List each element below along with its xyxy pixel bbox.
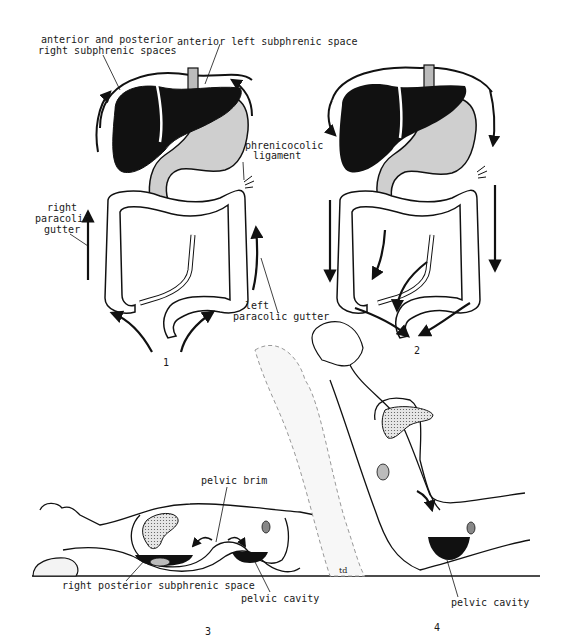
liver-3	[143, 513, 179, 548]
label-phrenicocolic-ligament: phrenicocolic ligament	[245, 141, 323, 161]
label-line: gutter	[35, 224, 89, 235]
colon-2	[337, 190, 480, 338]
panel-number-1: 1	[163, 357, 169, 368]
label-line: paracolic gutter	[233, 311, 329, 322]
label-anterior-left-subphrenic: anterior left subphrenic space	[177, 36, 358, 47]
label-line: right subphrenic spaces	[38, 45, 176, 56]
panel-number-2: 2	[414, 345, 420, 356]
label-line: anterior and posterior	[38, 34, 176, 45]
label-right-paracolic-gutter: right paracolic gutter	[35, 202, 89, 235]
label-pelvic-brim: pelvic brim	[201, 475, 267, 486]
label-line: ligament	[245, 151, 323, 161]
liver-4	[382, 407, 433, 439]
label-left-paracolic-gutter: left paracolic gutter	[233, 300, 329, 322]
label-line: paracolic	[35, 213, 89, 224]
label-pelvic-cavity-4: pelvic cavity	[451, 597, 529, 608]
panel-number-3: 3	[205, 626, 211, 637]
label-pelvic-cavity-3: pelvic cavity	[241, 593, 319, 604]
label-line: left	[233, 300, 329, 311]
colon-1	[105, 190, 248, 338]
label-right-posterior-subphrenic: right posterior subphrenic space	[62, 580, 255, 591]
panel-2-abdomen	[329, 65, 495, 338]
label-line: right	[35, 202, 89, 213]
artist-signature: td	[339, 565, 347, 576]
label-anterior-posterior-right-subphrenic: anterior and posterior right subphrenic …	[38, 34, 176, 56]
fluid-pelvic-4	[428, 537, 470, 560]
panel-4-upright-patient	[255, 322, 530, 597]
panel-number-4: 4	[434, 622, 440, 633]
